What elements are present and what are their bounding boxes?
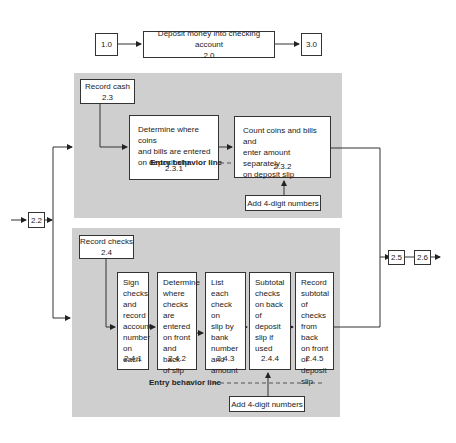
checks-step-2-4-2: Determine where checks are entered on fr… [157, 272, 197, 370]
cash-step-2-3-2: Count coins and bills and enter amount s… [234, 116, 331, 178]
step-text: Subtotal checks on back of deposit slip … [255, 278, 284, 353]
step-number: 2.4.5 [296, 353, 333, 364]
step-1-0-box: 1.0 [95, 33, 118, 56]
checks-entry-behavior-label: Entry behavior line [149, 378, 221, 387]
step-number: 2.4.1 [118, 353, 148, 364]
checks-prerequisite-box: Add 4-digit numbers [229, 396, 305, 412]
record-cash-number: 2.3 [102, 92, 113, 103]
step-2-0-title: Deposit money into checking account [144, 28, 274, 50]
step-2-5-label: 2.5 [391, 252, 402, 263]
checks-step-2-4-3: List each check on slip by bank number a… [205, 272, 246, 370]
step-2-2-box: 2.2 [28, 212, 45, 228]
checks-step-2-4-5: Record subtotal of checks from back on f… [295, 272, 334, 370]
record-cash-header: Record cash 2.3 [80, 79, 135, 104]
record-checks-title: Record checks [80, 236, 133, 247]
record-cash-title: Record cash [85, 81, 130, 92]
step-1-0-label: 1.0 [101, 39, 112, 50]
step-2-0-box: Deposit money into checking account 2.0 [143, 31, 275, 58]
step-3-0-box: 3.0 [301, 33, 322, 56]
cash-entry-behavior-label: Entry behavior line [150, 158, 222, 167]
step-2-6-box: 2.6 [414, 250, 431, 265]
cash-prerequisite-label: Add 4-digit numbers [247, 198, 319, 209]
step-text: Record subtotal of checks from back on f… [301, 278, 329, 386]
checks-step-2-4-4: Subtotal checks on back of deposit slip … [249, 272, 291, 370]
step-2-2-label: 2.2 [31, 215, 42, 226]
step-number: 2.4.2 [158, 353, 196, 364]
step-2-6-label: 2.6 [417, 252, 428, 263]
checks-step-2-4-1: Sign checks and record account number on… [117, 272, 149, 370]
connector-lines [0, 0, 456, 443]
record-checks-header: Record checks 2.4 [79, 235, 134, 259]
step-2-5-box: 2.5 [388, 250, 405, 265]
record-checks-number: 2.4 [101, 247, 112, 258]
step-2-0-number: 2.0 [203, 50, 214, 61]
step-number: 2.3.2 [235, 161, 330, 172]
step-number: 2.4.4 [250, 353, 290, 364]
checks-prerequisite-label: Add 4-digit numbers [231, 399, 303, 410]
step-text: Sign checks and record account number on… [123, 278, 151, 364]
step-3-0-label: 3.0 [306, 39, 317, 50]
step-number: 2.4.3 [206, 353, 245, 364]
cash-prerequisite-box: Add 4-digit numbers [245, 195, 321, 211]
cash-step-2-3-1: Determine where coins and bills are ente… [129, 115, 219, 180]
